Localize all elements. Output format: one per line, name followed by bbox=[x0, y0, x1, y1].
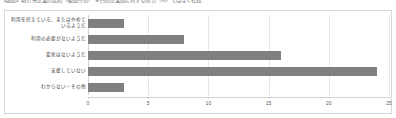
bar bbox=[88, 67, 377, 76]
bar-row: わからない・その他 bbox=[5, 79, 393, 95]
bar bbox=[88, 35, 184, 44]
chart-screenshot: 【図表】取引先企業の反応（複数回答） ※回答企業数に対する割合（％）ではなく社数… bbox=[0, 0, 396, 118]
category-label: 利用の必要がないようだ bbox=[7, 36, 86, 42]
x-tick-label: 5 bbox=[147, 100, 150, 106]
category-label: わからない・その他 bbox=[7, 84, 86, 90]
x-tick-label: 10 bbox=[206, 100, 212, 106]
chart-caption: 【図表】取引先企業の反応（複数回答） ※回答企業数に対する割合（％）ではなく社数 bbox=[1, 0, 202, 4]
bar-row: 変化はないようだ bbox=[5, 47, 393, 63]
caption-strip: 【図表】取引先企業の反応（複数回答） ※回答企業数に対する割合（％）ではなく社数 bbox=[0, 0, 396, 9]
bar bbox=[88, 51, 281, 60]
x-tick-mark bbox=[88, 97, 89, 99]
bar bbox=[88, 83, 124, 92]
chart-frame: 利用を控えている、またはやめているようだ利用の必要がないようだ変化はないようだ支… bbox=[4, 10, 392, 114]
x-axis: 0510152025 bbox=[88, 97, 389, 111]
x-tick-mark bbox=[329, 97, 330, 99]
bar-row: 支援していない bbox=[5, 63, 393, 79]
x-tick-label: 25 bbox=[386, 100, 392, 106]
bar bbox=[88, 19, 124, 28]
bar-row: 利用を控えている、またはやめているようだ bbox=[5, 15, 393, 31]
bar-row: 利用の必要がないようだ bbox=[5, 31, 393, 47]
category-label: 支援していない bbox=[7, 68, 86, 74]
x-tick-mark bbox=[148, 97, 149, 99]
x-tick-mark bbox=[269, 97, 270, 99]
x-tick-mark bbox=[208, 97, 209, 99]
x-tick-mark bbox=[389, 97, 390, 99]
category-label: 変化はないようだ bbox=[7, 52, 86, 58]
bar-rows: 利用を控えている、またはやめているようだ利用の必要がないようだ変化はないようだ支… bbox=[5, 15, 393, 95]
x-tick-label: 0 bbox=[87, 100, 90, 106]
x-axis-line bbox=[88, 97, 389, 98]
x-tick-label: 20 bbox=[326, 100, 332, 106]
category-label: 利用を控えている、またはやめているようだ bbox=[7, 17, 86, 28]
x-tick-label: 15 bbox=[266, 100, 272, 106]
